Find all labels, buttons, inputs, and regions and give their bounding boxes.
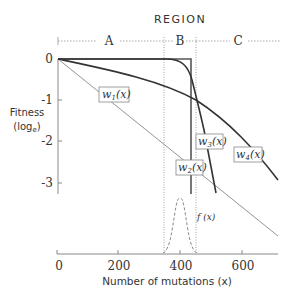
x-tick-600: 600 (232, 259, 255, 273)
region-label-a: A (104, 34, 114, 48)
y-tick-1: -1 (41, 93, 53, 107)
x-tick-0: 0 (55, 259, 63, 273)
svg-text:w1(x): w1(x) (102, 88, 131, 102)
x-axis-label: Number of mutations (x) (102, 275, 232, 287)
region-label-b: B (176, 34, 185, 48)
y-axis-label-line1: Fitness (10, 107, 45, 118)
distribution-fx-label: f (x) (196, 212, 216, 222)
fitness-chart: REGION A B C 0 -1 -2 -3 Fitness (loge) 0 (0, 0, 295, 301)
y-axis-label-line2: (loge) (13, 121, 40, 134)
y-tick-0: 0 (45, 52, 53, 66)
x-tick-200: 200 (108, 259, 131, 273)
svg-text:w2(x): w2(x) (178, 161, 207, 175)
legend-w4: w4(x) (234, 147, 265, 162)
legend-w2: w2(x) (176, 160, 207, 175)
series-w2-line (58, 59, 191, 194)
region-header: REGION (154, 13, 206, 26)
region-label-c: C (233, 34, 242, 48)
distribution-fx (163, 198, 197, 253)
legend-w3: w3(x) (196, 134, 227, 149)
y-tick-3: -3 (41, 176, 53, 190)
y-tick-2: -2 (41, 134, 53, 148)
svg-text:w3(x): w3(x) (198, 135, 227, 149)
legend-w1: w1(x) (99, 87, 131, 102)
svg-text:w4(x): w4(x) (236, 148, 265, 162)
x-tick-400: 400 (170, 259, 193, 273)
